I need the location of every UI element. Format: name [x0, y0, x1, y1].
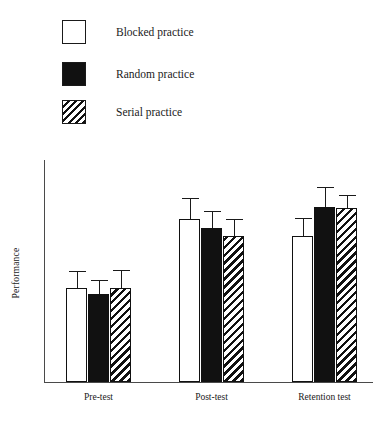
error-bar-cap — [91, 280, 108, 281]
error-bar-stem — [77, 271, 78, 288]
bar-pre-test-serial-practice — [110, 288, 131, 382]
error-bar-cap — [295, 218, 312, 219]
bar-post-test-blocked-practice — [179, 219, 200, 382]
x-tick-label-post-test: Post-test — [167, 392, 257, 402]
error-bar-stem — [212, 211, 213, 228]
chart-plot-area: Performance Pre-testPost-testRetention t… — [0, 0, 386, 422]
error-bar-cap — [204, 211, 221, 212]
error-bar-stem — [234, 219, 235, 236]
bar-retention-test-random-practice — [314, 207, 335, 382]
bar-pre-test-random-practice — [88, 294, 109, 382]
error-bar-cap — [226, 219, 243, 220]
error-bar-stem — [99, 280, 100, 294]
x-tick-label-pre-test: Pre-test — [54, 392, 144, 402]
error-bar-stem — [190, 198, 191, 219]
error-bar-cap — [339, 195, 356, 196]
error-bar-stem — [347, 195, 348, 208]
error-bar-cap — [317, 187, 334, 188]
error-bar-stem — [303, 218, 304, 236]
bar-post-test-serial-practice — [223, 236, 244, 382]
bar-retention-test-serial-practice — [336, 208, 357, 382]
bar-retention-test-blocked-practice — [292, 236, 313, 382]
error-bar-cap — [113, 270, 130, 271]
error-bar-stem — [325, 187, 326, 207]
bar-post-test-random-practice — [201, 228, 222, 382]
error-bar-stem — [121, 270, 122, 288]
x-axis-line — [44, 382, 373, 383]
x-tick-label-retention-test: Retention test — [280, 392, 370, 402]
y-axis-line — [44, 160, 45, 383]
error-bar-cap — [182, 198, 199, 199]
y-axis-title: Performance — [11, 233, 21, 313]
performance-bar-chart-figure: Blocked practice Random practice Serial … — [0, 0, 386, 422]
bar-pre-test-blocked-practice — [66, 288, 87, 382]
error-bar-cap — [69, 271, 86, 272]
